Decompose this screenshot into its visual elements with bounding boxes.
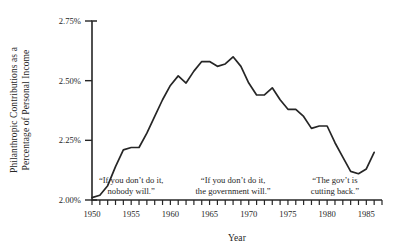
y-tick-label: 2.75%: [59, 16, 81, 26]
annotation-2: “If you don’t do it,the government will.…: [195, 175, 270, 196]
annotation-line2: nobody will.”: [108, 186, 155, 196]
chart-figure: 2.00%2.25%2.50%2.75%19501955196019651970…: [0, 0, 401, 250]
x-tick-label: 1980: [319, 209, 336, 219]
x-tick-label: 1965: [201, 209, 218, 219]
line-chart: 2.00%2.25%2.50%2.75%19501955196019651970…: [0, 0, 401, 250]
x-tick-label: 1955: [123, 209, 140, 219]
annotation-3: “The gov’t iscutting back.”: [311, 175, 359, 196]
x-axis-title: Year: [228, 233, 247, 243]
annotation-line1: “If you don’t do it,: [99, 175, 164, 185]
y-axis-title-line1: Philanthropic Contributions as a: [9, 46, 19, 173]
annotation-1: “If you don’t do it,nobody will.”: [99, 175, 164, 196]
y-tick-label: 2.50%: [59, 76, 81, 86]
x-tick-label: 1960: [162, 209, 179, 219]
annotation-line2: the government will.”: [195, 186, 270, 196]
x-tick-label: 1950: [83, 209, 100, 219]
y-tick-label: 2.00%: [59, 195, 81, 205]
x-tick-label: 1985: [358, 209, 375, 219]
annotation-line2: cutting back.”: [311, 186, 359, 196]
annotation-line1: “If you don’t do it,: [201, 175, 266, 185]
x-tick-label: 1975: [279, 209, 296, 219]
x-tick-label: 1970: [240, 209, 257, 219]
y-axis-line: [92, 21, 97, 200]
annotation-line1: “The gov’t is: [312, 175, 358, 185]
y-axis-title-line2: Percentage of Personal Income: [21, 50, 31, 171]
y-tick-label: 2.25%: [59, 135, 81, 145]
